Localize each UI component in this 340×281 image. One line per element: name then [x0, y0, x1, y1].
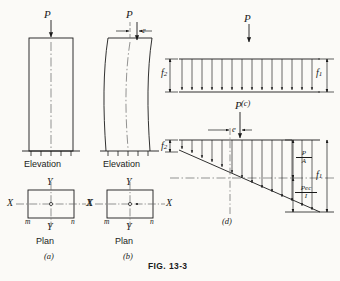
panel-a-axis-y-top: Y [47, 177, 53, 187]
panel-d-bending-stress-formula: Pec I [295, 185, 317, 200]
panel-d-eccentricity-label: e [232, 125, 236, 134]
panel-b-elevation-label: Elevation [103, 160, 140, 169]
panel-c-stress-left-label: f2 [161, 68, 167, 78]
panel-b-corner-n: n [150, 218, 154, 226]
panel-a-load-label: P [44, 9, 51, 20]
panel-d-stress-right-label: f1 [316, 170, 322, 180]
panel-b-eccentricity-label: e [142, 26, 146, 35]
panel-b-corner-m: m [104, 218, 109, 226]
panel-c-key: (c) [241, 99, 250, 108]
panel-d-key: (d) [222, 217, 232, 226]
panel-b-key: (b) [123, 252, 133, 261]
panel-b-elevation [100, 22, 159, 156]
panel-a-corner-n: n [71, 218, 75, 226]
panel-a-plan-label: Plan [36, 237, 54, 246]
panel-a-axis-x-left: X [7, 198, 13, 208]
panel-a-elevation [22, 20, 80, 156]
panel-a-axis-y-bottom: Y [47, 222, 53, 232]
panel-c-diagram [165, 24, 334, 92]
panel-a-elevation-label: Elevation [24, 160, 61, 169]
panel-b-load-label: P [126, 9, 133, 20]
panel-c-stress-right-label: f1 [316, 68, 322, 78]
panel-b-axis-x-right: X [166, 198, 172, 208]
panel-d-axial-stress-formula: P A [296, 150, 312, 165]
figure-13-3: P Elevation Y Y X X m n Plan (a) P e Ele… [0, 0, 340, 281]
panel-b-axis-y-top: Y [126, 177, 132, 187]
figure-caption: FIG. 13-3 [148, 261, 188, 271]
panel-b-plan-label: Plan [115, 237, 133, 246]
panel-b-axis-x-left: X [86, 198, 92, 208]
panel-d-stress-left-label: f2 [161, 141, 167, 151]
panel-c-load-label: P [244, 13, 251, 24]
panel-b-axis-y-bottom: Y [126, 222, 132, 232]
panel-a-key: (a) [44, 252, 54, 261]
panel-a-corner-m: m [25, 218, 30, 226]
panel-d-load-label: P [235, 100, 242, 111]
